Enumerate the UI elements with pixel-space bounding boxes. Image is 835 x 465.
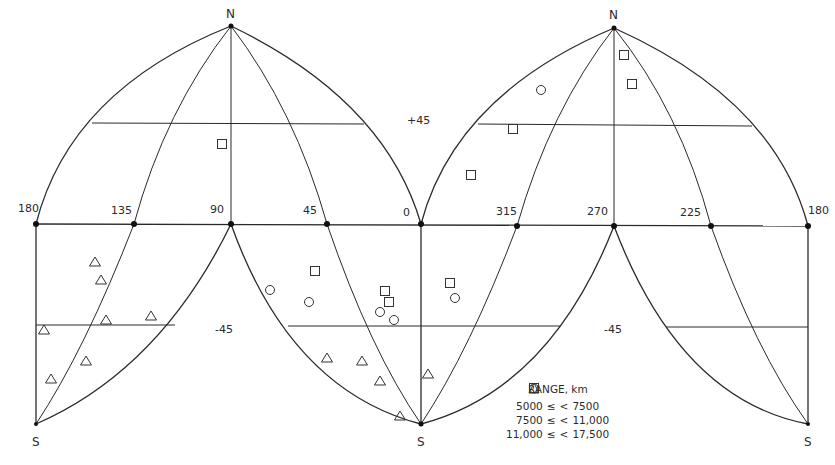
legend-upper: 17,500 <box>572 427 614 441</box>
right-lower-lobe-west-boundary <box>614 226 808 424</box>
legend-lower: 11,000 <box>506 427 543 441</box>
triangle-marker <box>96 275 107 284</box>
triangle-marker <box>90 257 101 266</box>
legend-lower: 7500 <box>516 413 543 427</box>
square-marker <box>385 298 394 307</box>
triangle-marker <box>375 376 386 385</box>
legend-op: < <box>560 413 569 427</box>
world-map <box>0 0 835 465</box>
square-marker <box>311 267 320 276</box>
triangle-marker <box>81 356 92 365</box>
meridian-45-south <box>327 224 421 424</box>
south-pole-label-right: S <box>804 436 812 448</box>
north-pole-label-left: N <box>226 8 235 20</box>
legend-rows: 5000 ≤ < 7500 7500 ≤ < 11,000 11,000 ≤ <… <box>506 399 614 441</box>
equator-nodes <box>33 24 811 427</box>
right-upper-lobe-east-boundary <box>614 28 808 226</box>
lon-label-45: 45 <box>303 205 317 216</box>
lon-label-90: 90 <box>210 204 224 215</box>
north-pole-label-right: N <box>609 9 618 21</box>
meridian-135-north <box>134 26 231 224</box>
legend-op: ≤ <box>547 413 556 427</box>
circle-marker <box>376 308 385 317</box>
south-pole-label-middle: S <box>417 436 425 448</box>
lon-label-225: 225 <box>680 207 701 218</box>
square-marker <box>509 125 518 134</box>
parallel-plus45-right <box>478 124 752 126</box>
legend-title: RANGE, km <box>528 382 614 396</box>
square-marker <box>467 171 476 180</box>
legend-op: < <box>560 399 569 413</box>
square-marker <box>446 279 455 288</box>
left-lower-lobe-east-boundary <box>36 224 231 424</box>
lon-label-0: 0 <box>403 207 410 218</box>
lat-label-minus45-left: -45 <box>215 324 233 335</box>
parallel-plus45-left <box>92 123 364 124</box>
circle-marker <box>266 286 275 295</box>
lon-label-135: 135 <box>111 205 132 216</box>
legend-op: ≤ <box>547 399 556 413</box>
legend-row-triangle: 5000 ≤ < 7500 <box>506 399 614 413</box>
left-upper-lobe-east-boundary <box>231 26 421 224</box>
legend: RANGE, km 5000 ≤ < 7500 7500 ≤ < 11,000 … <box>528 382 614 441</box>
triangle-marker <box>146 311 157 320</box>
triangle-marker <box>46 374 57 383</box>
legend-row-square: 11,000 ≤ < 17,500 <box>506 427 614 441</box>
meridian-225-south <box>711 226 808 424</box>
lon-label-180-right: 180 <box>808 205 829 216</box>
square-marker <box>381 287 390 296</box>
meridian-315-south <box>421 226 517 424</box>
legend-op: < <box>560 427 569 441</box>
lat-label-plus45: +45 <box>407 115 430 126</box>
square-icon <box>528 382 540 394</box>
legend-op: ≤ <box>547 427 556 441</box>
lon-label-270: 270 <box>587 206 608 217</box>
square-marker <box>218 140 227 149</box>
circle-marker <box>390 316 399 325</box>
left-upper-lobe-west-boundary <box>36 26 231 224</box>
triangle-marker <box>322 353 333 362</box>
meridian-315-north <box>517 28 614 226</box>
lon-label-180-left: 180 <box>18 203 39 214</box>
triangle-marker <box>423 369 434 378</box>
triangle-marker <box>101 315 112 324</box>
lon-label-315: 315 <box>496 206 517 217</box>
circle-marker <box>537 86 546 95</box>
legend-upper: 7500 <box>572 399 614 413</box>
circle-marker <box>305 298 314 307</box>
lat-label-minus45-right: -45 <box>604 324 622 335</box>
triangle-marker <box>39 325 50 334</box>
square-marker <box>620 51 629 60</box>
triangle-marker <box>357 356 368 365</box>
square-marker <box>628 80 637 89</box>
legend-row-circle: 7500 ≤ < 11,000 <box>506 413 614 427</box>
meridian-135-south <box>36 224 134 424</box>
circle-marker <box>451 294 460 303</box>
legend-upper: 11,000 <box>572 413 614 427</box>
south-pole-label-left: S <box>32 436 40 448</box>
legend-lower: 5000 <box>516 399 543 413</box>
meridian-45-north <box>231 26 327 224</box>
